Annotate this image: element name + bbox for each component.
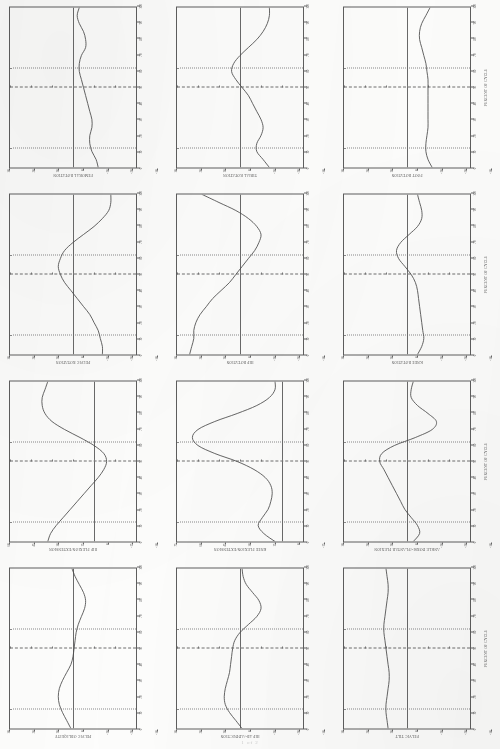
y-tick-mark bbox=[299, 355, 300, 357]
x-axis-label bbox=[148, 381, 157, 543]
panel-foot-rotation: FOOT ROTATION0102030405060708090100PERCE… bbox=[333, 0, 500, 187]
x-tick-label: 80 bbox=[473, 599, 477, 602]
x-axis-label bbox=[315, 568, 324, 730]
x-tick-label: 80 bbox=[306, 599, 310, 602]
x-tick-label: 90 bbox=[306, 583, 310, 586]
y-tick-mark bbox=[343, 168, 344, 170]
x-tick-label: 10 bbox=[473, 712, 477, 715]
x-tick-label: 10 bbox=[140, 150, 144, 153]
kinematic-curve bbox=[177, 194, 303, 354]
y-tick-mark bbox=[466, 543, 467, 545]
x-tick-label: 10 bbox=[473, 338, 477, 341]
chart-panel: PELVIC OBLIQUITY0102030405060708090100-3… bbox=[9, 568, 157, 743]
y-tick-mark bbox=[201, 355, 202, 357]
x-tick-label: 30 bbox=[140, 680, 144, 683]
plot-area bbox=[176, 193, 304, 355]
y-axis-labels: -30-20-100102030 bbox=[176, 168, 324, 181]
kinematic-curve bbox=[10, 382, 136, 542]
x-tick-label: 80 bbox=[306, 224, 310, 227]
x-tick-label: 70 bbox=[473, 428, 477, 431]
panel-tibial-rotation: TIBIAL ROTATION0102030405060708090100-30… bbox=[167, 0, 334, 187]
x-tick-label: 20 bbox=[306, 134, 310, 137]
x-tick-label: 20 bbox=[140, 134, 144, 137]
x-tick-label: 10 bbox=[140, 525, 144, 528]
y-tick-mark bbox=[392, 168, 393, 170]
x-tick-label: 70 bbox=[473, 53, 477, 56]
x-tick-label: 90 bbox=[306, 21, 310, 24]
x-tick-label: 90 bbox=[473, 395, 477, 398]
x-tick-label: 50 bbox=[473, 460, 477, 463]
x-tick-label: 90 bbox=[473, 208, 477, 211]
x-tick-label: 50 bbox=[306, 647, 310, 650]
x-axis: 0102030405060708090100 bbox=[471, 381, 482, 543]
x-tick-label: 20 bbox=[306, 696, 310, 699]
x-tick-label: 10 bbox=[473, 525, 477, 528]
x-tick-label: 60 bbox=[473, 69, 477, 72]
y-tick-mark bbox=[367, 355, 368, 357]
x-tick-label: 40 bbox=[306, 102, 310, 105]
x-tick-label: 90 bbox=[306, 395, 310, 398]
x-tick-label: 70 bbox=[140, 53, 144, 56]
y-axis-labels: -30-20-100102030 bbox=[176, 355, 324, 368]
x-tick-label: 60 bbox=[473, 631, 477, 634]
x-tick-label: 40 bbox=[140, 102, 144, 105]
y-tick-mark bbox=[367, 168, 368, 170]
rotated-chart-frame: PELVIC TILT0102030405060708090100PERCENT… bbox=[343, 568, 491, 743]
x-tick-label: 60 bbox=[140, 69, 144, 72]
panel-ankle-dorsi-plantar-flexion: ANKLE DORSI-/PLANTAR FLEXION010203040506… bbox=[333, 375, 500, 562]
x-tick-label: 10 bbox=[306, 712, 310, 715]
y-tick-mark bbox=[299, 543, 300, 545]
y-tick-mark bbox=[417, 543, 418, 545]
kinematic-curve bbox=[177, 7, 303, 167]
y-tick-mark bbox=[392, 543, 393, 545]
x-tick-label: 70 bbox=[306, 240, 310, 243]
x-axis-label bbox=[148, 193, 157, 355]
x-tick-label: 40 bbox=[140, 289, 144, 292]
x-tick-label: 60 bbox=[306, 257, 310, 260]
x-tick-label: 40 bbox=[306, 664, 310, 667]
x-tick-label: 40 bbox=[473, 476, 477, 479]
kinematic-curve bbox=[10, 569, 136, 729]
x-tick-label: 70 bbox=[140, 615, 144, 618]
chart-panel: PELVIC TILT0102030405060708090100PERCENT… bbox=[343, 568, 491, 743]
y-tick-mark bbox=[250, 355, 251, 357]
x-tick-label: 70 bbox=[473, 240, 477, 243]
y-tick-mark bbox=[176, 355, 177, 357]
rotated-chart-frame: FEMORAL ROTATION0102030405060708090100-3… bbox=[9, 6, 157, 181]
panel-grid: FEMORAL ROTATION0102030405060708090100-3… bbox=[0, 0, 500, 749]
chart-panel: ANKLE DORSI-/PLANTAR FLEXION010203040506… bbox=[343, 381, 491, 556]
plot-area bbox=[343, 193, 471, 355]
x-axis: 0102030405060708090100 bbox=[471, 6, 482, 168]
y-tick-mark bbox=[225, 355, 226, 357]
panel-hip-flexion-extension: HIP FLEXION/EXTENSION0102030405060708090… bbox=[0, 375, 167, 562]
y-tick-mark bbox=[441, 355, 442, 357]
footer-page-mark: 1 of 2 bbox=[0, 740, 500, 745]
x-tick-label: 60 bbox=[140, 631, 144, 634]
rotated-chart-frame: HIP AB-/ADDUCTION0102030405060708090100-… bbox=[176, 568, 324, 743]
y-tick-mark bbox=[367, 543, 368, 545]
y-axis-labels: -30-20-100102030 bbox=[343, 168, 491, 181]
kinematic-curve bbox=[177, 382, 303, 542]
x-tick-label: 20 bbox=[140, 696, 144, 699]
y-axis-labels: -30-15015304560 bbox=[9, 543, 157, 556]
x-tick-label: 40 bbox=[473, 102, 477, 105]
plot-area bbox=[343, 381, 471, 543]
plot-area bbox=[176, 568, 304, 730]
report-page: FEMORAL ROTATION0102030405060708090100-3… bbox=[0, 0, 500, 749]
x-tick-label: 20 bbox=[306, 509, 310, 512]
y-tick-mark bbox=[201, 543, 202, 545]
y-tick-mark bbox=[491, 355, 492, 357]
kinematic-curve bbox=[10, 7, 136, 167]
x-tick-label: 70 bbox=[473, 615, 477, 618]
x-tick-label: 80 bbox=[306, 411, 310, 414]
x-tick-label: 100 bbox=[473, 378, 477, 383]
rotated-chart-frame: HIP FLEXION/EXTENSION0102030405060708090… bbox=[9, 381, 157, 556]
y-tick-mark bbox=[201, 168, 202, 170]
rotated-chart-frame: HIP ROTATION0102030405060708090100-30-20… bbox=[176, 193, 324, 368]
x-tick-label: 90 bbox=[473, 583, 477, 586]
y-tick-mark bbox=[441, 168, 442, 170]
x-tick-label: 50 bbox=[306, 273, 310, 276]
x-tick-label: 10 bbox=[306, 525, 310, 528]
x-tick-label: 50 bbox=[473, 273, 477, 276]
x-axis-label: PERCENT OF CYCLE bbox=[482, 568, 491, 730]
